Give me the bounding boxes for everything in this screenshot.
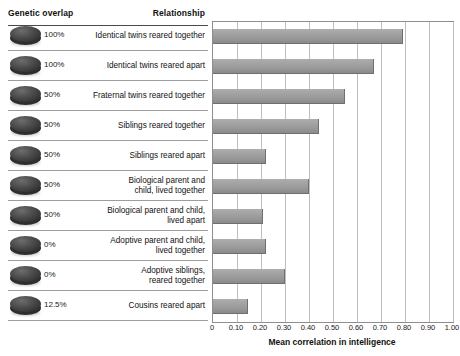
relationship-label: Cousins reared apart: [55, 291, 205, 321]
bar-row: [213, 202, 453, 232]
x-tick-label: 0.90: [421, 323, 436, 332]
genetic-overlap-disc-icon: [10, 206, 41, 226]
bar-row: [213, 262, 453, 292]
gridline: [453, 22, 454, 322]
table-row: 50%Fraternal twins reared together: [0, 81, 212, 111]
table-body: 100%Identical twins reared together100%I…: [0, 21, 212, 321]
genetic-overlap-disc-icon: [10, 86, 41, 106]
genetic-overlap-disc-icon: [10, 146, 41, 166]
column-header-genetic-overlap: Genetic overlap: [8, 8, 73, 18]
bar-row: [213, 82, 453, 112]
relationship-label: Siblings reared apart: [55, 141, 205, 171]
genetic-overlap-intelligence-chart: Genetic overlap Relationship 100%Identic…: [0, 0, 460, 356]
x-axis-label: Mean correlation in intelligence: [212, 337, 452, 347]
x-tick-label: 0.50: [325, 323, 340, 332]
relationship-label: Biological parent andchild, lived togeth…: [55, 171, 205, 201]
x-tick-label: 0.60: [349, 323, 364, 332]
x-tick-label: 0.80: [397, 323, 412, 332]
table-row: 50%Siblings reared together: [0, 111, 212, 141]
relationship-label: Identical twins reared apart: [55, 51, 205, 81]
bar-row: [213, 112, 453, 142]
bar-row: [213, 22, 453, 52]
x-axis-ticks: 00.100.200.300.400.500.600.700.800.901.0…: [212, 323, 452, 335]
genetic-overlap-disc-icon: [10, 116, 41, 136]
table-row: 50%Siblings reared apart: [0, 141, 212, 171]
bar: [213, 239, 266, 254]
plot-area: [212, 21, 454, 323]
bar-row: [213, 232, 453, 262]
relationship-label: Identical twins reared together: [55, 21, 205, 51]
bar-series: [213, 22, 453, 322]
table-row: 100%Identical twins reared together: [0, 21, 212, 51]
relationship-label: Siblings reared together: [55, 111, 205, 141]
genetic-overlap-disc-icon: [10, 26, 41, 46]
x-tick-label: 0: [210, 323, 214, 332]
relationship-label: Adoptive parent and child,lived together: [55, 231, 205, 261]
x-tick-label: 1.00: [445, 323, 460, 332]
row-divider: [8, 320, 208, 321]
genetic-overlap-disc-icon: [10, 56, 41, 76]
genetic-overlap-value: 0%: [44, 240, 56, 249]
x-tick-label: 0.40: [301, 323, 316, 332]
bar: [213, 149, 266, 164]
bar-row: [213, 52, 453, 82]
table-row: 0%Adoptive siblings,reared together: [0, 261, 212, 291]
relationship-label: Adoptive siblings,reared together: [55, 261, 205, 291]
table-row: 12.5%Cousins reared apart: [0, 291, 212, 321]
bar: [213, 59, 374, 74]
x-tick-label: 0.70: [373, 323, 388, 332]
genetic-overlap-disc-icon: [10, 266, 41, 286]
bar-row: [213, 172, 453, 202]
bar: [213, 89, 345, 104]
genetic-overlap-disc-icon: [10, 236, 41, 256]
column-header-relationship: Relationship: [153, 8, 205, 18]
bar: [213, 299, 248, 314]
relationship-label: Biological parent and child,lived apart: [55, 201, 205, 231]
x-tick-label: 0.10: [229, 323, 244, 332]
bar-row: [213, 142, 453, 172]
table-row: 50%Biological parent and child,lived apa…: [0, 201, 212, 231]
table-column-headers: Genetic overlap Relationship: [0, 6, 212, 22]
relationship-label: Fraternal twins reared together: [55, 81, 205, 111]
relationship-table: Genetic overlap Relationship 100%Identic…: [0, 0, 212, 356]
bar: [213, 179, 309, 194]
bar: [213, 269, 285, 284]
x-tick-label: 0.20: [253, 323, 268, 332]
table-row: 0%Adoptive parent and child,lived togeth…: [0, 231, 212, 261]
table-row: 100%Identical twins reared apart: [0, 51, 212, 81]
bar: [213, 29, 403, 44]
genetic-overlap-disc-icon: [10, 176, 41, 196]
bar-row: [213, 292, 453, 322]
genetic-overlap-disc-icon: [10, 296, 41, 316]
bar: [213, 209, 263, 224]
x-tick-label: 0.30: [277, 323, 292, 332]
genetic-overlap-value: 0%: [44, 270, 56, 279]
table-row: 50%Biological parent andchild, lived tog…: [0, 171, 212, 201]
bar: [213, 119, 319, 134]
